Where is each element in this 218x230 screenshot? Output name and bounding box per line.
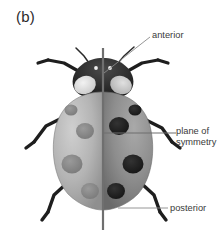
spot-right-3 <box>123 155 144 174</box>
label-posterior: posterior <box>170 203 206 214</box>
leg-front-left <box>38 60 80 72</box>
figure-panel-b: (b) anterior plane of symmetry posterior <box>0 0 218 230</box>
spot-right-2 <box>109 117 129 135</box>
leg-hind-right <box>142 184 166 220</box>
spot-right-4 <box>107 183 125 199</box>
label-plane-of-symmetry: plane of symmetry <box>176 126 216 147</box>
ladybug-illustration <box>0 0 218 230</box>
panel-label: (b) <box>16 8 35 25</box>
spot-left-2 <box>76 123 94 139</box>
spot-left-1 <box>65 105 78 116</box>
spot-left-4 <box>81 183 99 199</box>
spot-left-3 <box>62 155 83 174</box>
spot-right-1 <box>129 105 142 116</box>
eye-dot-left <box>94 66 98 70</box>
leg-front-right <box>126 60 168 72</box>
label-anterior: anterior <box>152 30 184 41</box>
leg-hind-left <box>42 184 66 220</box>
